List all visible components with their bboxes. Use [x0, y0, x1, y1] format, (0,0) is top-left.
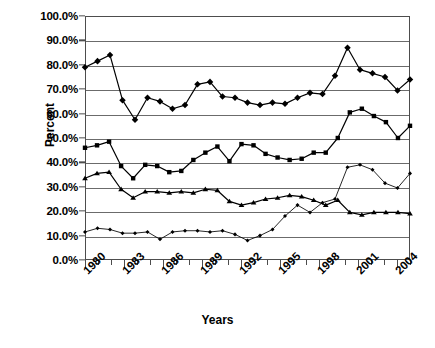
x-axis-minor-tick	[189, 260, 190, 265]
y-axis-tick-label: 0.0%	[53, 254, 78, 266]
y-axis-tick-label: 30.0%	[46, 181, 78, 193]
y-axis-tick-labels: 0.0%10.0%20.0%30.0%40.0%50.0%60.0%70.0%8…	[0, 0, 82, 276]
gridline	[86, 115, 409, 116]
y-axis-tick-label: 70.0%	[46, 83, 78, 95]
x-axis-minor-tick	[267, 260, 268, 265]
y-axis-tick-label: 10.0%	[46, 230, 78, 242]
gridline	[86, 66, 409, 67]
gridline	[86, 163, 409, 164]
y-axis-tick-label: 50.0%	[46, 132, 78, 144]
gridline	[86, 41, 409, 42]
gridline	[86, 237, 409, 238]
gridline	[86, 212, 409, 213]
x-axis-minor-tick	[111, 260, 112, 265]
y-axis-tick-label: 20.0%	[46, 205, 78, 217]
gridline	[86, 90, 409, 91]
y-axis-tick-label: 80.0%	[46, 59, 78, 71]
gridline	[86, 188, 409, 189]
y-axis-tick-label: 90.0%	[46, 34, 78, 46]
gridline	[86, 139, 409, 140]
x-axis-minor-tick	[384, 260, 385, 265]
y-axis-tick-label: 60.0%	[46, 108, 78, 120]
x-axis-minor-tick	[345, 260, 346, 265]
x-axis-title: Years	[0, 313, 435, 327]
chart-container: Percent 0.0%10.0%20.0%30.0%40.0%50.0%60.…	[0, 0, 435, 348]
x-axis-minor-tick	[228, 260, 229, 265]
y-axis-tick-label: 40.0%	[46, 156, 78, 168]
x-axis-minor-tick	[306, 260, 307, 265]
x-axis-minor-tick	[150, 260, 151, 265]
plot-area	[85, 16, 410, 260]
y-axis-tick-label: 100.0%	[40, 10, 78, 22]
